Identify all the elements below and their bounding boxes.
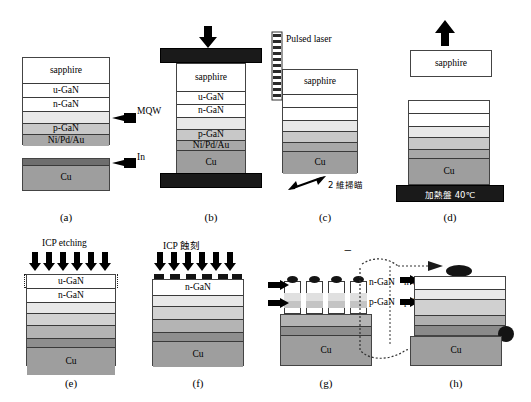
layer-u-gan [409, 101, 489, 114]
layer-n-gan [415, 277, 505, 290]
layer-p-gan [153, 307, 243, 320]
icp-etching-label-e: ICP etching [42, 238, 87, 248]
layer-n-gan: n-GaN [177, 105, 245, 118]
press-arrow-down-icon [198, 26, 218, 48]
layer-cu: Cu [27, 348, 115, 375]
layer-mqw [415, 290, 505, 300]
layer-mqw [177, 118, 245, 130]
layer-u-gan: u-GaN [23, 84, 109, 98]
layer-p-gan [27, 314, 115, 326]
layer-cu: Cu [177, 151, 245, 174]
panel-c-stack: sapphire Cu [282, 69, 358, 173]
scan-label: 2 維掃瞄 [328, 178, 363, 190]
layer-metal [415, 316, 505, 326]
layer-cu: Cu [283, 152, 357, 174]
panel-g-caption: (g) [296, 377, 356, 389]
layer-n-gan [409, 114, 489, 127]
layer-metal [153, 320, 243, 333]
panel-e-stack: u-GaN n-GaN Cu [26, 274, 116, 366]
label-n-gan-g: n-GaN [369, 277, 395, 287]
layer-mqw [283, 121, 357, 132]
layer-cu: Cu [409, 159, 489, 184]
layer-u-gan [283, 95, 357, 108]
panel-e-caption: (e) [41, 377, 101, 389]
layer-cu: Cu [411, 337, 501, 365]
layer-sapphire: sapphire [23, 58, 109, 84]
layer-n-gan: n-GaN [27, 289, 115, 303]
layer-u-gan: u-GaN [177, 92, 245, 105]
layer-mqw [27, 303, 115, 314]
scan-double-arrow-icon [288, 176, 328, 192]
hotplate-label: 加熱盤 40℃ [425, 188, 475, 200]
panel-f-stack: n-GaN Cu [152, 279, 244, 366]
layer-in [27, 339, 115, 348]
layer-in [153, 333, 243, 342]
layer-metal [27, 326, 115, 339]
layer-cu: Cu [23, 166, 109, 190]
layer-p-gan [409, 138, 489, 150]
in-arrow-icon [110, 157, 136, 169]
callout-mqw: MQW [137, 106, 161, 116]
panel-d-lifted-sapphire: sapphire [410, 50, 492, 77]
layer-p-gan [283, 132, 357, 143]
layer-sapphire: sapphire [177, 64, 245, 92]
press-plate-top [160, 48, 262, 63]
layer-sapphire: sapphire [283, 70, 357, 95]
layer-u-gan: u-GaN [27, 275, 115, 289]
icp-etch-arrows-e-icon [30, 252, 116, 272]
layer-ni-pd-au [409, 150, 489, 159]
panel-a-cu-substrate: Cu [22, 158, 110, 191]
panel-d-stack: Cu [408, 100, 490, 185]
layer-p-gan [415, 300, 505, 316]
label-p-gan-g: p-GaN [369, 297, 395, 307]
layer-ni-pd-au: Ni/Pd/Au [23, 135, 109, 146]
panel-c-caption: (c) [295, 211, 355, 223]
layer-in [23, 159, 109, 166]
layer-mqw [23, 112, 109, 124]
layer-n-gan: n-GaN [153, 280, 243, 296]
panel-b-stack: sapphire u-GaN n-GaN p-GaN Ni/Pd/Au Cu [176, 63, 246, 173]
liftoff-arrow-up-icon [434, 20, 456, 46]
icp-etch-arrows-f-icon [155, 252, 241, 272]
panel-f-caption: (f) [168, 377, 228, 389]
n-gan-arrow-g-icon [268, 280, 290, 314]
panel-a-caption: (a) [36, 211, 96, 223]
layer-cu: Cu [153, 342, 243, 367]
icp-etching-label-f: ICP 蝕刻 [163, 238, 200, 252]
layer-n-gan [283, 108, 357, 121]
mqw-arrow-icon [110, 112, 136, 124]
press-plate-bottom [160, 173, 262, 188]
layer-mqw [409, 127, 489, 138]
layer-ni-pd-au [283, 143, 357, 152]
layer-n-gan: n-GaN [23, 98, 109, 112]
callout-in: In [137, 152, 145, 162]
layer-p-gan: p-GaN [23, 124, 109, 135]
panel-d-caption: (d) [420, 211, 480, 223]
layer-in [415, 326, 505, 335]
panel-b-caption: (b) [181, 211, 241, 223]
layer-sapphire: sapphire [411, 51, 491, 76]
hotplate: 加熱盤 40℃ [396, 185, 504, 202]
panel-h-stack [414, 276, 506, 336]
pulsed-laser-beam-icon [272, 32, 282, 100]
layer-ni-pd-au: Ni/Pd/Au [177, 141, 245, 151]
layer-mqw [153, 296, 243, 307]
panel-h-caption: (h) [426, 377, 486, 389]
pulsed-laser-label: Pulsed laser [286, 34, 332, 44]
panel-h-cu: Cu [410, 336, 502, 366]
panel-a-epi-stack: sapphire u-GaN n-GaN p-GaN Ni/Pd/Au [22, 57, 110, 145]
